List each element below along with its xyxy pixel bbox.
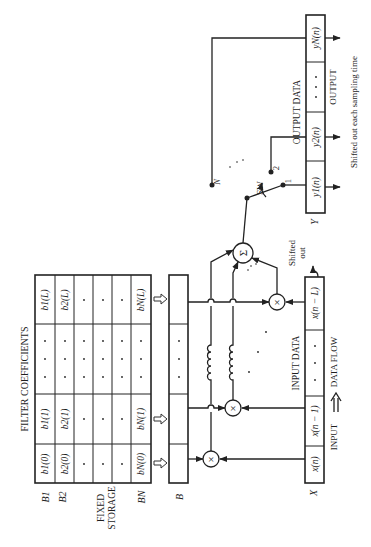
b-register [169, 275, 188, 483]
output-arrows [325, 38, 340, 187]
data-flow-label: INPUT DATA FLOW [329, 336, 341, 450]
svg-text:Σ: Σ [237, 250, 249, 256]
output-switch: SW 1 2 N [210, 159, 294, 200]
svg-text:×: × [274, 296, 280, 308]
coeff-bN-1: bN(1) [136, 408, 147, 430]
input-cell-xn: x(n) [310, 456, 321, 472]
coeff-b1-1: b1(1) [40, 409, 51, 430]
output-cell-yN: yN(n) [311, 27, 322, 50]
ellipsis-dots [247, 263, 267, 373]
product-wire-0 [208, 250, 234, 451]
input-register: x(n) x(n − 1) x(n − L) [305, 277, 324, 483]
coeff-b2-0: b2(0) [60, 454, 71, 475]
row-label-bN: BN [136, 489, 147, 503]
output-cell-y1: y1(n) [311, 177, 322, 198]
shifted-out-label: Shiftedout [287, 240, 307, 266]
contact-N-label: N [212, 178, 222, 186]
sum-output-wire [243, 198, 247, 243]
output-register: y1(n) y2(n) yN(n) [306, 15, 325, 213]
row-label-b1: B1 [40, 491, 51, 502]
svg-text:DATA FLOW: DATA FLOW [329, 336, 339, 387]
input-cell-xn-L: x(n − L) [310, 287, 321, 320]
coeff-b1-L: b1(L) [40, 289, 51, 310]
filter-coefficients-title: FILTER COEFFICIENTS [19, 327, 30, 432]
shifted-out-arrow [313, 266, 318, 277]
svg-text:INPUT: INPUT [329, 423, 339, 450]
contact-2-label: 2 [271, 166, 281, 170]
multiplier-L: × [269, 294, 285, 310]
multiplier-0: × [203, 451, 219, 467]
svg-text:×: × [230, 402, 236, 414]
b-register-label: B [174, 494, 185, 500]
coefficient-wires [188, 299, 269, 459]
output-label: OUTPUT [328, 69, 338, 105]
svg-text:×: × [208, 453, 214, 465]
summation-node: Σ [233, 243, 253, 263]
row-label-b2: B2 [57, 491, 68, 502]
output-cell-y2: y2(n) [311, 127, 322, 148]
coeff-b2-L: b2(L) [60, 289, 71, 310]
input-register-label: X [308, 489, 319, 497]
contact-1-label: 1 [283, 179, 293, 183]
switch-label: SW [255, 181, 265, 195]
output-register-label: Y [309, 218, 320, 225]
multiplier-1: × [225, 400, 241, 416]
coeff-b1-0: b1(0) [40, 454, 51, 475]
coeff-bN-0: bN(0) [136, 453, 147, 475]
fir-filter-bank-diagram: b1(0) b1(1) b1(L) b2(0) b2(1) b2(L) bN(0… [0, 0, 371, 547]
input-cell-xn-1: x(n − 1) [310, 405, 321, 437]
load-arrows [154, 294, 167, 468]
input-data-title: INPUT DATA [291, 335, 301, 390]
output-data-title: OUTPUT DATA [292, 80, 302, 144]
output-note: Shifted out each sampling time [349, 56, 359, 168]
product-wire-1 [230, 262, 238, 400]
filter-coefficients-table: b1(0) b1(1) b1(L) b2(0) b2(1) b2(L) bN(0… [35, 275, 151, 483]
coeff-b2-1: b2(1) [60, 409, 71, 430]
fixed-storage-label: FIXEDSTORAGE [96, 486, 117, 530]
coeff-bN-L: bN(L) [136, 289, 147, 312]
